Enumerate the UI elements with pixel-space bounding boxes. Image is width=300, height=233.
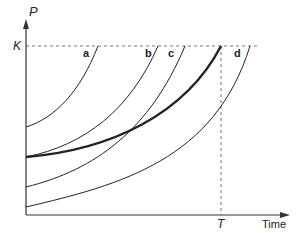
curve-c <box>26 46 185 187</box>
time-marker-label: T <box>217 217 226 231</box>
capacity-label: K <box>13 39 22 53</box>
curve-label-b: b <box>145 47 152 59</box>
curve-label-a: a <box>83 47 90 59</box>
population-growth-diagram: P K T Time a b c d <box>0 0 300 233</box>
curve-label-c: c <box>168 47 174 59</box>
x-axis-label: Time <box>262 218 286 230</box>
y-axis-label: P <box>29 4 38 19</box>
y-axis-arrow-icon <box>23 19 29 29</box>
curve-label-d: d <box>234 47 241 59</box>
curve-b <box>26 46 158 157</box>
